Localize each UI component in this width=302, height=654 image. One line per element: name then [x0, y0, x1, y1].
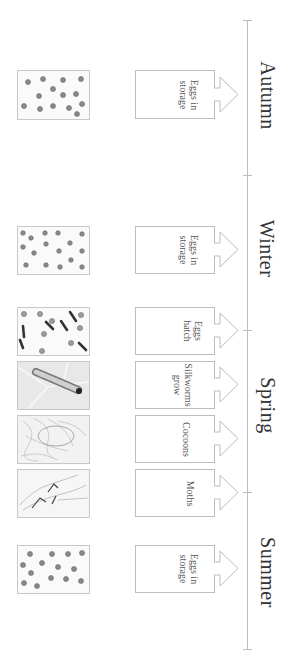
- stage-box-moths: Moths: [135, 469, 215, 517]
- stage-box-eggs-in-storage: Eggs in storage: [135, 226, 215, 274]
- stage-label: Eggs in storage: [178, 554, 200, 584]
- stage-label: Eggs hatch: [182, 320, 204, 342]
- season-label-autumn: Autumn: [255, 45, 279, 145]
- eggs-photo: [17, 70, 90, 120]
- arrow-right-icon: [214, 420, 240, 457]
- arrow-right-icon: [214, 76, 240, 113]
- stage-label: Silkworms grow: [171, 363, 193, 406]
- arrow-right-icon: [214, 231, 240, 268]
- season-label-winter: Winter: [255, 198, 279, 298]
- eggs-photo: [17, 226, 90, 275]
- season-label-spring: Spring: [255, 355, 279, 455]
- eggs-illustration: [18, 546, 89, 593]
- stage-label: Cocoons: [181, 422, 192, 457]
- timeline-tick: [243, 330, 252, 331]
- arrow-right-icon: [214, 312, 240, 349]
- moths-illustration: [18, 470, 89, 517]
- timeline-tick: [243, 492, 252, 493]
- eggs-illustration: [18, 227, 89, 274]
- season-label-summer: Summer: [255, 517, 279, 627]
- timeline-tick: [243, 649, 252, 650]
- arrow-right-icon: [214, 366, 240, 403]
- cocoon-photo: [17, 415, 90, 464]
- stage-box-eggs-in-storage: Eggs in storage: [135, 70, 215, 119]
- silkworm-photo: [17, 361, 90, 410]
- stage-box-cocoons: Cocoons: [135, 415, 215, 463]
- eggs-illustration: [18, 71, 89, 119]
- arrow-right-icon: [214, 550, 240, 587]
- arrow-right-icon: [214, 474, 240, 511]
- hatching-eggs-illustration: [18, 308, 89, 355]
- stage-label: Eggs in storage: [178, 235, 200, 265]
- moths-photo: [17, 469, 90, 518]
- hatching-eggs-photo: [17, 307, 90, 356]
- stage-box-silkworms-grow: Silkworms grow: [135, 361, 215, 409]
- stage-box-eggs-hatch: Eggs hatch: [135, 307, 215, 355]
- stage-label: Eggs in storage: [178, 79, 200, 109]
- cocoon-illustration: [18, 416, 89, 463]
- eggs-photo: [17, 545, 90, 594]
- timeline-tick: [243, 175, 252, 176]
- stage-label: Moths: [186, 480, 197, 506]
- stage-box-eggs-in-storage: Eggs in storage: [135, 545, 215, 593]
- timeline-axis: [247, 20, 248, 650]
- silkworm-illustration: [18, 362, 89, 409]
- timeline-tick: [243, 20, 252, 21]
